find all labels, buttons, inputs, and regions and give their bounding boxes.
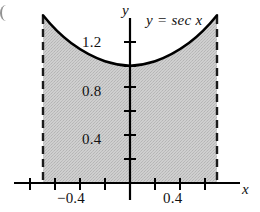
x-axis-tick-label-positive-0-4: 0.4	[163, 191, 182, 206]
y-axis-tick-label-0-4: 0.4	[82, 132, 101, 147]
plot-canvas	[0, 0, 260, 212]
x-axis-label: x	[242, 182, 249, 197]
curve-equation-label: y = sec x	[146, 13, 203, 28]
y-axis-label: y	[122, 3, 129, 18]
y-axis-tick-label-1-2: 1.2	[82, 35, 101, 50]
x-axis-tick-label-negative-0-4: −0.4	[57, 191, 85, 206]
y-axis-tick-label-0-8: 0.8	[82, 84, 101, 99]
secant-function-figure: 1.2 0.8 0.4 −0.4 0.4 y x y = sec x	[0, 0, 260, 212]
